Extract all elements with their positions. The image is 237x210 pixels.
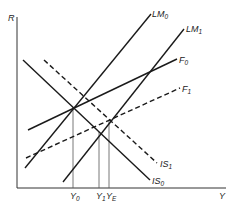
curve-lm0 [25,14,151,168]
curve-f0 [28,59,177,130]
x-axis-label: Y [219,191,226,201]
label-is0: IS0 [152,176,165,187]
label-is1: IS1 [160,159,173,170]
label-lm0: LM0 [152,9,169,20]
label-lm1: LM1 [186,24,203,35]
islm-diagram: R Y LM0 LM1 F0 F1 IS1 IS0 Y0 Y1 YE [0,0,237,210]
curve-is0 [23,60,150,180]
curve-f1 [26,88,180,158]
label-y0: Y0 [70,191,80,202]
label-f1: F1 [182,84,192,95]
label-y1: Y1 [96,191,106,202]
y-axis-label: R [8,13,15,23]
label-ye: YE [106,191,117,202]
label-f0: F0 [179,55,189,66]
